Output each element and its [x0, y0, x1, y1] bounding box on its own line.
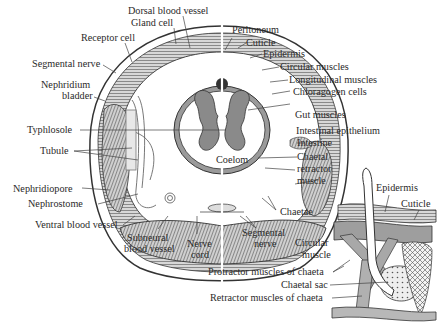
- label-chaetal: Chaetal: [297, 151, 328, 162]
- label-nephridium: Nephridium: [41, 79, 90, 90]
- label-inset-epidermis: Epidermis: [376, 182, 418, 193]
- label-segmental-nerve-bottom: Segmental: [242, 227, 285, 238]
- label-muscle: muscle: [297, 175, 326, 186]
- label-gland-cell: Gland cell: [131, 17, 173, 28]
- label-nerve: Nerve: [187, 238, 212, 249]
- label-chaetal-sac: Chaetal sac: [281, 279, 328, 290]
- label-circular-muscles: Circular muscles: [280, 61, 349, 72]
- label-inset-cuticle: Cuticle: [401, 198, 431, 209]
- label-bladder: bladder: [62, 90, 93, 101]
- earthworm-cross-section-diagram: Dorsal blood vessel Gland cell Receptor …: [0, 0, 443, 326]
- label-retractor: retractor: [297, 163, 332, 174]
- label-blood-vessel: blood vessel: [124, 243, 175, 254]
- label-tubule: Tubule: [40, 145, 69, 156]
- label-intestine: Intestine: [297, 137, 333, 148]
- label-retractor-muscles: Retractor muscles of chaeta: [210, 292, 323, 303]
- label-inset-muscle: muscle: [302, 249, 331, 260]
- label-ventral-blood-vessel: Ventral blood vessel: [35, 219, 118, 230]
- label-typhlosole: Typhlosole: [27, 124, 73, 135]
- label-peritoneum: Peritoneum: [232, 24, 279, 35]
- label-epidermis: Epidermis: [263, 48, 305, 59]
- label-subneural: Subneural: [127, 232, 168, 243]
- label-nerve-bottom: nerve: [254, 238, 277, 249]
- label-intestinal-epithelium: Intestinal epithelium: [296, 125, 380, 136]
- label-gut-muscles: Gut muscles: [295, 109, 346, 120]
- label-chloragogen-cells: Chloragogen cells: [293, 86, 367, 97]
- label-coelom: Coelom: [216, 154, 248, 165]
- label-cord: cord: [191, 249, 209, 260]
- label-longitudinal-muscles: Longitudinal muscles: [289, 74, 377, 85]
- label-inset-circular: Circular: [295, 237, 329, 248]
- label-segmental-nerve-top: Segmental nerve: [32, 58, 101, 69]
- label-chaetae: Chaetae: [280, 206, 313, 217]
- label-cuticle: Cuticle: [246, 37, 276, 48]
- label-dorsal-blood-vessel: Dorsal blood vessel: [128, 5, 209, 16]
- label-protractor-muscles: Protractor muscles of chaeta: [208, 266, 324, 277]
- label-receptor-cell: Receptor cell: [81, 32, 135, 43]
- label-nephrostome: Nephrostome: [28, 198, 83, 209]
- label-nephridiopore: Nephridiopore: [13, 183, 73, 194]
